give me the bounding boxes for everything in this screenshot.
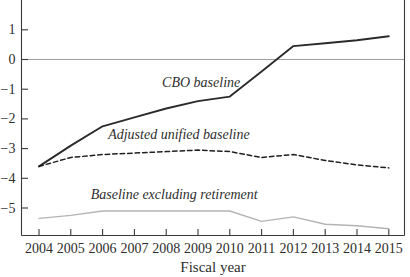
x-tick-label: 2014 — [343, 241, 371, 256]
x-tick-label: 2004 — [25, 241, 53, 256]
series-line-1 — [39, 36, 389, 166]
y-tick-label: −2 — [1, 111, 16, 126]
y-tick-label: 1 — [9, 22, 16, 37]
series-label-2: Adjusted unified baseline — [107, 127, 250, 142]
x-tick-label: 2010 — [216, 241, 244, 256]
x-tick-label: 2013 — [311, 241, 339, 256]
y-tick-label: −4 — [1, 171, 16, 186]
line-chart: 10−1−2−3−4−52004200520062007200820092010… — [0, 0, 410, 277]
x-tick-label: 2011 — [248, 241, 275, 256]
y-tick-label: 0 — [9, 52, 16, 67]
x-tick-label: 2012 — [279, 241, 307, 256]
series-label-1: CBO baseline — [162, 75, 240, 90]
x-tick-label: 2005 — [57, 241, 85, 256]
x-tick-label: 2009 — [184, 241, 212, 256]
x-tick-label: 2006 — [89, 241, 117, 256]
series-line-3 — [39, 211, 389, 229]
y-tick-label: −3 — [1, 141, 16, 156]
series-line-2 — [39, 150, 389, 168]
chart-figure: 10−1−2−3−4−52004200520062007200820092010… — [0, 0, 410, 277]
y-tick-label: −1 — [1, 82, 16, 97]
x-tick-label: 2008 — [152, 241, 180, 256]
x-tick-label: 2007 — [120, 241, 148, 256]
x-axis-title: Fiscal year — [180, 259, 245, 275]
x-tick-label: 2015 — [375, 241, 403, 256]
y-tick-label: −5 — [1, 201, 16, 216]
series-label-3: Baseline excluding retirement — [91, 187, 259, 202]
